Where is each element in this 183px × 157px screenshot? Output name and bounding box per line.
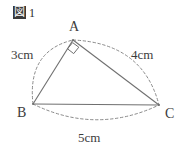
right-angle-marker xyxy=(68,43,79,54)
vertex-label-c: C xyxy=(165,107,174,121)
side-length-bc: 5cm xyxy=(78,131,100,144)
side-length-ab: 3cm xyxy=(11,48,33,61)
side-ab xyxy=(33,40,73,104)
arc-bc xyxy=(33,104,159,120)
vertex-dot-b xyxy=(32,103,34,105)
vertex-label-b: B xyxy=(17,106,26,120)
vertex-dot-a xyxy=(72,39,74,41)
vertex-dot-c xyxy=(158,104,160,106)
side-bc xyxy=(33,104,159,105)
side-length-ac: 4cm xyxy=(131,48,153,61)
figure-container: 図 1 A B C 3cm 4cm 5cm xyxy=(0,0,183,157)
vertex-label-a: A xyxy=(69,20,79,34)
